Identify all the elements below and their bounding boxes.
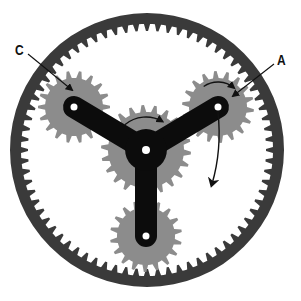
planetary-gear-diagram: C A [0,0,301,301]
planet-pin-hole [215,104,222,111]
label-a: A [277,52,286,67]
planet-pin-hole [143,233,150,240]
label-c: C [15,42,24,57]
gear-drawing [0,0,301,301]
hub-pin-hole [142,146,150,154]
planet-pin-hole [71,104,78,111]
